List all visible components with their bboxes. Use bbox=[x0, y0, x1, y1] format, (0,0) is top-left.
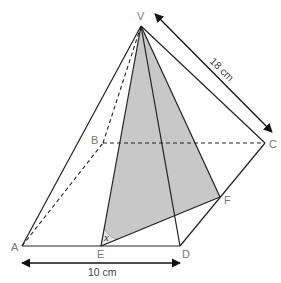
label-E: E bbox=[97, 248, 104, 260]
dimension-label-18cm: 18 cm bbox=[208, 55, 237, 84]
label-A: A bbox=[11, 241, 19, 253]
label-V: V bbox=[137, 10, 145, 22]
label-D: D bbox=[182, 248, 190, 260]
dimension-label-10cm: 10 cm bbox=[88, 266, 117, 278]
pyramid-diagram: V B C F A E D x 10 cm 18 cm bbox=[0, 0, 281, 283]
edge-AB bbox=[22, 143, 103, 246]
label-B: B bbox=[91, 134, 98, 146]
label-F: F bbox=[224, 194, 231, 206]
label-C: C bbox=[269, 138, 277, 150]
angle-label-x: x bbox=[103, 231, 109, 243]
